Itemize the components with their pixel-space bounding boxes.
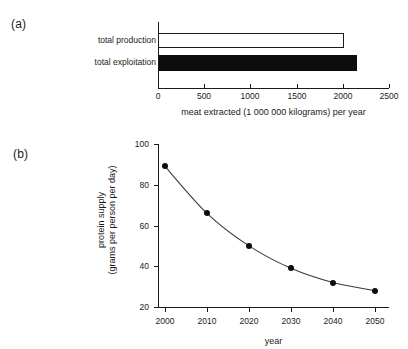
line-chart-data-point	[246, 243, 252, 249]
bar-chart-x-tick	[343, 84, 344, 88]
line-chart-x-tick-label: 2030	[271, 316, 311, 326]
bar-chart-x-tick	[297, 84, 298, 88]
bar-category-label-total-exploitation: total exploitation	[95, 57, 156, 67]
line-chart-x-tick	[333, 308, 334, 312]
line-chart-data-point	[372, 288, 378, 294]
line-chart-y-tick-label: 20	[119, 303, 149, 312]
line-chart-data-point	[162, 163, 168, 169]
line-chart-y-tick-label: 80	[119, 181, 149, 190]
bar-total-production	[158, 33, 344, 48]
line-chart-y-tick-label: 100	[119, 140, 149, 149]
line-chart-x-tick-label: 2000	[145, 316, 185, 326]
line-chart-data-point	[204, 210, 210, 216]
bar-chart-x-tick-label: 2000	[323, 91, 363, 101]
line-chart-x-tick	[375, 308, 376, 312]
bar-chart-x-axis-line	[158, 88, 389, 89]
bar-chart-x-tick-label: 2500	[369, 91, 408, 101]
bar-chart-x-tick	[204, 84, 205, 88]
line-chart-data-point	[330, 280, 336, 286]
line-chart-x-tick-label: 2010	[187, 316, 227, 326]
line-chart-x-tick-label: 2050	[355, 316, 395, 326]
bar-chart-x-tick	[158, 84, 159, 88]
bar-total-exploitation	[158, 55, 357, 71]
bar-chart-x-tick-label: 0	[138, 91, 178, 101]
line-chart-y-axis-title-line2: (grams per person per day)	[107, 160, 118, 280]
line-chart-x-tick	[249, 308, 250, 312]
line-chart-y-tick-label: 40	[119, 262, 149, 271]
line-chart-x-tick-label: 2020	[229, 316, 269, 326]
line-chart-y-tick-label: 60	[119, 222, 149, 231]
line-chart-x-tick	[165, 308, 166, 312]
line-chart-x-axis-line	[158, 307, 389, 308]
line-chart-y-tick	[154, 185, 158, 186]
bar-category-label-total-production: total production	[98, 35, 156, 45]
bar-chart-x-tick-label: 1000	[230, 91, 270, 101]
line-chart-x-tick-label: 2040	[313, 316, 353, 326]
bar-chart-x-tick	[389, 84, 390, 88]
panel-b-line-chart: (b) protein supply (grams per person per…	[0, 130, 408, 349]
bar-chart-x-tick-label: 1500	[277, 91, 317, 101]
line-chart-data-point	[288, 265, 294, 271]
line-chart-y-tick	[154, 226, 158, 227]
line-chart-x-tick	[207, 308, 208, 312]
figure-container: (a) total production total exploitation …	[0, 0, 408, 349]
bar-chart-x-tick	[250, 84, 251, 88]
line-chart-y-tick	[154, 307, 158, 308]
line-chart-y-tick	[154, 266, 158, 267]
panel-a-label: (a)	[11, 17, 26, 31]
line-chart-y-axis-line	[158, 144, 159, 308]
line-chart-y-tick	[154, 144, 158, 145]
bar-chart-y-axis-line	[158, 22, 159, 89]
line-chart-x-tick	[291, 308, 292, 312]
line-chart-y-axis-title-line1: protein supply	[96, 160, 107, 280]
bar-chart-x-axis-title: meat extracted (1 000 000 kilograms) per…	[158, 107, 389, 117]
bar-chart-x-tick-label: 500	[184, 91, 224, 101]
panel-a-bar-chart: (a) total production total exploitation …	[0, 0, 408, 130]
panel-b-label: (b)	[13, 147, 28, 161]
line-chart-x-axis-title: year	[158, 336, 389, 346]
